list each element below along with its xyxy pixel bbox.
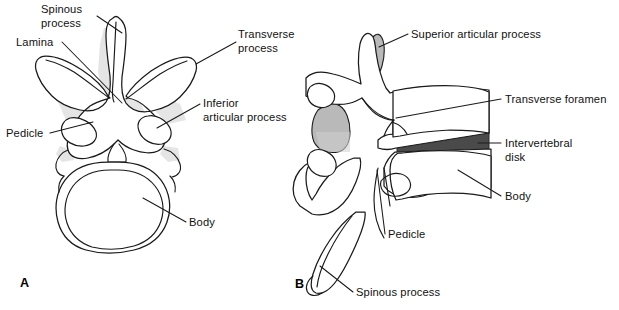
label-b-superior-articular-process: Superior articular process <box>411 28 561 42</box>
panel-letter-a: A <box>20 276 29 290</box>
label-b-spinous-process: Spinous process <box>356 286 466 300</box>
upper-vertebra-body <box>393 86 489 137</box>
body-notch-right <box>170 176 175 192</box>
label-b-transverse-foramen: Transverse foramen <box>505 93 617 107</box>
label-a-body: Body <box>189 216 235 230</box>
label-b-intervertebral-disk: Intervertebral disk <box>505 137 591 164</box>
leader-a-transverse-process <box>196 42 236 64</box>
label-transverse-process: Transverse process <box>238 28 312 55</box>
label-a-pedicle: Pedicle <box>6 127 56 141</box>
panel-letter-b: B <box>295 277 304 291</box>
inferior-articular-facet-ring <box>307 150 336 177</box>
label-a-spinous-process: Spinous process <box>41 3 103 30</box>
panel-b-drawing <box>293 33 501 295</box>
vertebral-body-outer <box>56 162 170 253</box>
label-a-lamina: Lamina <box>16 36 72 50</box>
label-b-pedicle: Pedicle <box>388 228 440 242</box>
lower-vertebra-pedicle-column <box>374 168 384 238</box>
label-b-body: Body <box>505 190 551 204</box>
label-a-inferior-articular-process: Inferior articular process <box>203 97 299 124</box>
anatomy-figure: Spinous process Lamina Pedicle Body Infe… <box>0 0 619 310</box>
lower-spinous-process <box>311 212 365 293</box>
